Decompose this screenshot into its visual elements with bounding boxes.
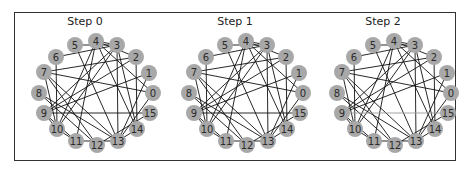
node-5: 5 xyxy=(67,37,83,53)
node-15: 15 xyxy=(142,105,158,121)
node-6: 6 xyxy=(198,49,214,65)
node-12: 12 xyxy=(387,137,403,153)
node-label: 13 xyxy=(262,136,275,147)
node-2: 2 xyxy=(426,49,442,65)
edge-6-3 xyxy=(354,45,415,57)
node-label: 0 xyxy=(300,88,306,99)
node-0: 0 xyxy=(443,85,459,101)
node-11: 11 xyxy=(218,133,234,149)
node-10: 10 xyxy=(199,121,215,137)
node-label: 6 xyxy=(351,52,357,63)
node-13: 13 xyxy=(408,133,424,149)
node-label: 1 xyxy=(444,68,450,79)
node-8: 8 xyxy=(31,85,47,101)
node-12: 12 xyxy=(89,137,105,153)
node-label: 5 xyxy=(72,40,78,51)
node-label: 8 xyxy=(334,88,340,99)
node-3: 3 xyxy=(259,37,275,53)
edge-6-3 xyxy=(206,45,267,57)
node-7: 7 xyxy=(334,64,350,80)
node-label: 3 xyxy=(114,40,120,51)
node-label: 12 xyxy=(241,140,254,151)
node-12: 12 xyxy=(239,137,255,153)
node-14: 14 xyxy=(279,121,295,137)
node-label: 8 xyxy=(36,88,42,99)
node-8: 8 xyxy=(181,85,197,101)
node-label: 9 xyxy=(191,108,197,119)
node-label: 13 xyxy=(410,136,423,147)
graph-step-0: 0123456789101112131415 xyxy=(10,0,160,170)
node-5: 5 xyxy=(217,37,233,53)
edge-3-13 xyxy=(267,45,268,141)
edge-3-13 xyxy=(415,45,416,141)
node-7: 7 xyxy=(186,64,202,80)
node-15: 15 xyxy=(440,105,456,121)
panel-step-2: Step 2 0123456789101112131415 xyxy=(308,0,458,170)
node-0: 0 xyxy=(145,85,161,101)
node-14: 14 xyxy=(427,121,443,137)
node-1: 1 xyxy=(141,65,157,81)
node-label: 15 xyxy=(144,108,157,119)
node-label: 3 xyxy=(264,40,270,51)
edge-6-10 xyxy=(354,57,355,129)
node-13: 13 xyxy=(110,133,126,149)
node-4: 4 xyxy=(386,33,402,49)
node-4: 4 xyxy=(238,33,254,49)
panel-step-1: Step 1 0123456789101112131415 xyxy=(160,0,310,170)
node-label: 12 xyxy=(91,140,104,151)
node-label: 10 xyxy=(201,124,214,135)
node-3: 3 xyxy=(407,37,423,53)
node-label: 14 xyxy=(429,124,442,135)
node-11: 11 xyxy=(366,133,382,149)
graph-step-2: 0123456789101112131415 xyxy=(308,0,458,170)
node-10: 10 xyxy=(49,121,65,137)
node-15: 15 xyxy=(292,105,308,121)
node-9: 9 xyxy=(334,105,350,121)
panel-step-0: Step 0 0123456789101112131415 xyxy=(10,0,160,170)
node-label: 2 xyxy=(431,52,437,63)
node-3: 3 xyxy=(109,37,125,53)
node-label: 14 xyxy=(281,124,294,135)
node-label: 4 xyxy=(391,36,397,47)
edge-3-13 xyxy=(117,45,118,141)
edge-6-10 xyxy=(56,57,57,129)
node-7: 7 xyxy=(36,64,52,80)
node-label: 1 xyxy=(146,68,152,79)
node-label: 9 xyxy=(41,108,47,119)
node-label: 2 xyxy=(133,52,139,63)
edge-2-14 xyxy=(434,57,435,129)
node-label: 5 xyxy=(370,40,376,51)
edge-2-14 xyxy=(136,57,137,129)
node-label: 6 xyxy=(203,52,209,63)
node-5: 5 xyxy=(365,37,381,53)
node-label: 4 xyxy=(243,36,249,47)
node-1: 1 xyxy=(291,65,307,81)
edge-6-10 xyxy=(206,57,207,129)
node-2: 2 xyxy=(128,49,144,65)
node-label: 7 xyxy=(339,67,345,78)
graph-step-1: 0123456789101112131415 xyxy=(160,0,310,170)
node-label: 6 xyxy=(53,52,59,63)
node-label: 0 xyxy=(150,88,156,99)
node-label: 11 xyxy=(220,136,233,147)
node-14: 14 xyxy=(129,121,145,137)
node-10: 10 xyxy=(347,121,363,137)
node-label: 1 xyxy=(296,68,302,79)
node-label: 3 xyxy=(412,40,418,51)
node-label: 9 xyxy=(339,108,345,119)
node-label: 10 xyxy=(349,124,362,135)
node-label: 7 xyxy=(191,67,197,78)
node-label: 11 xyxy=(368,136,381,147)
node-1: 1 xyxy=(439,65,455,81)
node-2: 2 xyxy=(278,49,294,65)
node-8: 8 xyxy=(329,85,345,101)
node-6: 6 xyxy=(346,49,362,65)
node-label: 11 xyxy=(70,136,83,147)
node-9: 9 xyxy=(36,105,52,121)
edge-2-14 xyxy=(286,57,287,129)
node-label: 8 xyxy=(186,88,192,99)
node-label: 10 xyxy=(51,124,64,135)
node-label: 7 xyxy=(41,67,47,78)
node-label: 2 xyxy=(283,52,289,63)
edge-6-3 xyxy=(56,45,117,57)
